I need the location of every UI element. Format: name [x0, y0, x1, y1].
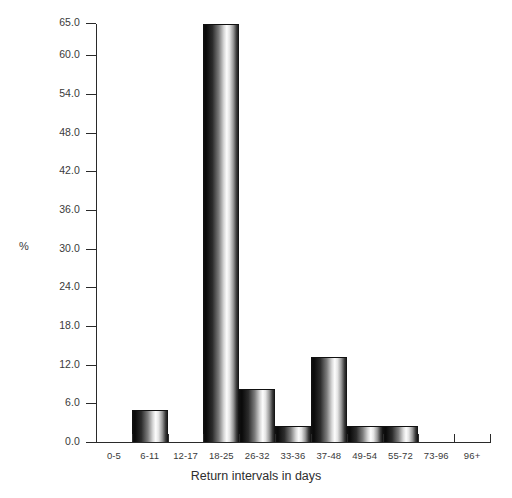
y-axis-tick-label: 0.0 — [44, 435, 80, 447]
y-axis-tick-label: 30.0 — [44, 242, 80, 254]
x-axis-tick — [132, 434, 133, 443]
y-axis-label: % — [14, 240, 34, 252]
x-axis-tick — [203, 434, 204, 443]
y-axis-tick — [86, 365, 96, 366]
x-axis-tick — [418, 434, 419, 443]
y-axis-tick — [86, 210, 96, 211]
x-axis-tick — [239, 434, 240, 443]
x-axis-tick — [383, 434, 384, 443]
x-axis-tick — [168, 434, 169, 443]
y-axis-tick — [86, 326, 96, 327]
x-axis-tick-label: 96+ — [454, 450, 490, 461]
y-axis-tick — [86, 23, 96, 24]
x-axis-tick — [96, 434, 97, 443]
x-axis-tick — [275, 434, 276, 443]
bar-37-48 — [311, 357, 347, 442]
y-axis-tick-label: 18.0 — [44, 319, 80, 331]
bar-6-11 — [132, 410, 168, 442]
y-axis-tick-label: 65.0 — [44, 16, 80, 28]
y-axis-tick — [86, 403, 96, 404]
x-axis-tick-label: 49-54 — [347, 450, 383, 461]
y-axis-tick — [86, 171, 96, 172]
x-axis-tick — [454, 434, 455, 443]
y-axis-tick-label: 36.0 — [44, 203, 80, 215]
x-axis-tick-label: 0-5 — [96, 450, 132, 461]
bar-26-32 — [239, 389, 275, 442]
bar-55-72 — [383, 426, 419, 442]
y-axis-tick-label: 12.0 — [44, 358, 80, 370]
bar-49-54 — [347, 426, 383, 442]
x-axis-tick — [347, 434, 348, 443]
y-axis-tick — [86, 55, 96, 56]
y-axis-tick — [86, 94, 96, 95]
x-axis-tick-label: 26-32 — [239, 450, 275, 461]
bar-18-25 — [203, 24, 239, 442]
x-axis-tick-label: 73-96 — [418, 450, 454, 461]
y-axis-tick-label: 42.0 — [44, 164, 80, 176]
bar-33-36 — [275, 426, 311, 442]
x-axis-tick-label: 6-11 — [132, 450, 168, 461]
x-axis-tick-label: 18-25 — [203, 450, 239, 461]
x-axis-label: Return intervals in days — [0, 469, 512, 483]
x-axis-tick — [490, 434, 491, 443]
y-axis-tick-label: 60.0 — [44, 48, 80, 60]
x-axis-tick-label: 55-72 — [383, 450, 419, 461]
y-axis-tick — [86, 442, 96, 443]
plot-area — [96, 24, 490, 442]
x-axis-tick-label: 37-48 — [311, 450, 347, 461]
y-axis-tick — [86, 249, 96, 250]
x-axis-line — [96, 442, 490, 443]
y-axis-tick-label: 48.0 — [44, 126, 80, 138]
y-axis-tick — [86, 133, 96, 134]
y-axis-tick-label: 6.0 — [44, 396, 80, 408]
bar-chart: % 0.06.012.018.024.030.036.042.048.054.0… — [0, 0, 512, 498]
x-axis-tick — [311, 434, 312, 443]
y-axis-tick — [86, 287, 96, 288]
x-axis-tick-label: 33-36 — [275, 450, 311, 461]
y-axis-tick-label: 24.0 — [44, 280, 80, 292]
x-axis-tick-label: 12-17 — [168, 450, 204, 461]
y-axis-tick-label: 54.0 — [44, 87, 80, 99]
